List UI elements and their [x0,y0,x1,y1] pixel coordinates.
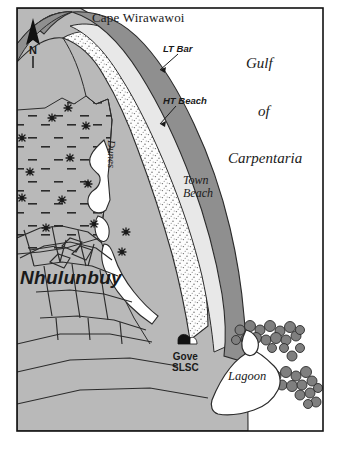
label-of: of [258,103,270,120]
map-figure: Cape Wirawawoi Gulf of Carpentaria LT Ba… [0,0,340,455]
label-lagoon: Lagoon [228,369,266,383]
label-lt-bar: LT Bar [163,44,192,55]
label-north-letter: N [29,44,37,56]
map-graphic [0,0,340,455]
label-gulf: Gulf [246,55,273,72]
label-nhulunbuy: Nhulunbuy [20,267,122,288]
label-ht-beach: HT Beach [163,96,207,107]
label-carpentaria: Carpentaria [228,150,302,167]
label-town-beach: Town Beach [183,174,213,201]
label-dunes: Dunes [106,140,118,168]
label-cape-wirawawoi: Cape Wirawawoi [92,11,185,26]
label-gove-slsc: Gove SLSC [172,351,199,373]
